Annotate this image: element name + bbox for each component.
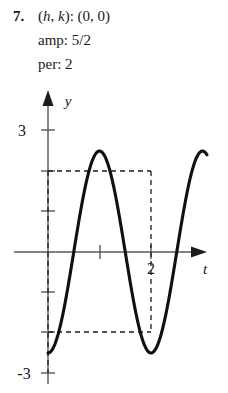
graph-canvas: 3 -3 2 y t [0,84,228,393]
problem-line-amplitude: amp: 5/2 [38,33,91,48]
x-axis-arrowhead [191,247,207,258]
y-axis-name: y [63,93,72,109]
y-label-3: 3 [18,122,26,139]
x-axis-name: t [203,261,208,277]
y-label-neg3: -3 [17,365,30,382]
problem-number: 7. [13,9,24,24]
variable-k: k [58,8,65,24]
cosine-graph: 3 -3 2 y t [0,84,228,393]
variable-h: h [43,8,51,24]
hk-values: ): (0, 0) [65,8,110,24]
problem-statement: 7. (h, k): (0, 0) amp: 5/2 per: 2 [0,0,228,88]
hk-comma: , [51,8,59,24]
problem-line-hk: (h, k): (0, 0) [38,9,110,24]
problem-line-period: per: 2 [38,57,73,72]
x-label-2: 2 [147,260,155,277]
y-axis-arrowhead [43,90,54,106]
